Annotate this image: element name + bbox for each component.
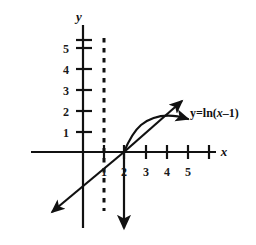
x-tick-label-2: 2: [121, 165, 127, 179]
y-tick-label-5: 5: [63, 42, 69, 56]
graph-figure: y x 1 2 3 4 5 1 2 3 4 5 y=ln(x–1): [0, 0, 256, 245]
coordinate-plane-svg: y x 1 2 3 4 5 1 2 3 4 5 y=ln(x–1): [0, 0, 256, 245]
curve-label-variable: x: [216, 106, 223, 120]
y-tick-label-4: 4: [63, 63, 69, 77]
tangent-line-lower-branch: [52, 152, 124, 212]
y-tick-label-3: 3: [63, 84, 69, 98]
y-axis-label: y: [74, 9, 82, 24]
curve-equation-label: y=ln(x–1): [190, 106, 239, 120]
log-curve: [124, 116, 188, 152]
tangent-line-upper-branch: [124, 101, 182, 152]
x-tick-label-3: 3: [143, 165, 149, 179]
x-axis-label: x: [220, 144, 228, 159]
y-tick-label-2: 2: [63, 105, 69, 119]
x-tick-label-1: 1: [101, 165, 107, 179]
x-tick-label-4: 4: [164, 165, 170, 179]
x-tick-label-5: 5: [185, 165, 191, 179]
y-tick-label-1: 1: [63, 126, 69, 140]
curve-label-suffix: –1): [222, 106, 239, 120]
curve-label-prefix: y=ln(: [190, 106, 217, 120]
